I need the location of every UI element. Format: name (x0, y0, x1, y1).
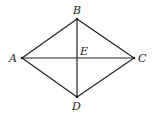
label-c: C (138, 52, 147, 65)
rhombus-diagram: A B C D E (0, 0, 158, 118)
label-d: D (71, 100, 81, 113)
label-b: B (72, 4, 81, 17)
point-a (21, 57, 24, 60)
label-a: A (8, 52, 17, 65)
label-e: E (79, 45, 88, 58)
point-d (76, 96, 79, 99)
point-c (133, 57, 136, 60)
point-b (76, 18, 79, 21)
